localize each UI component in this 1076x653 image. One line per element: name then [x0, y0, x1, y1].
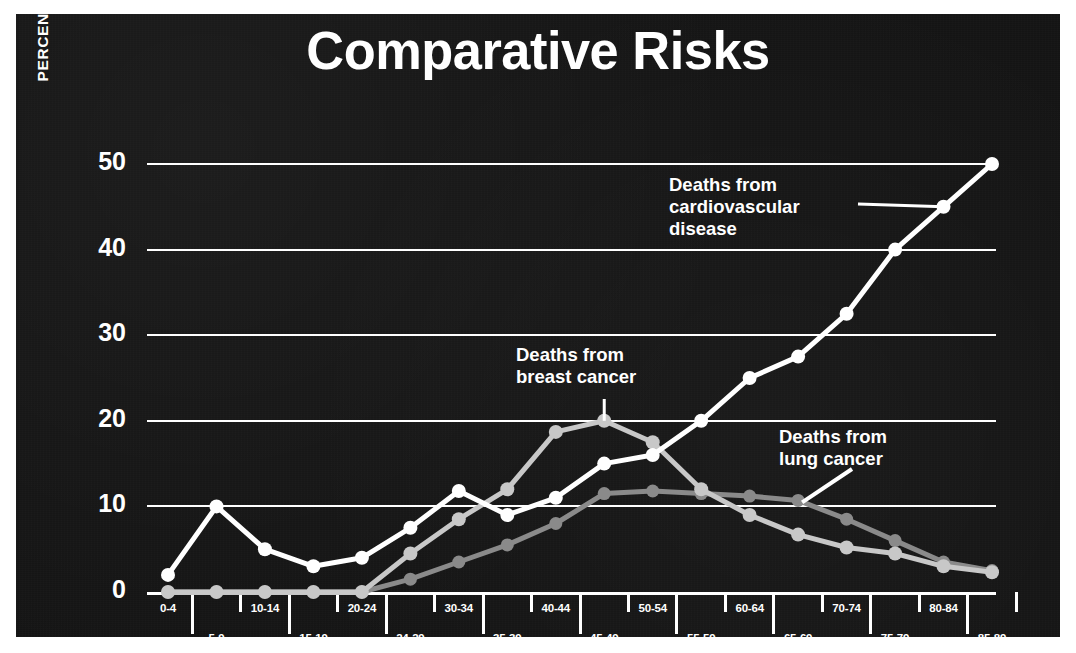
annotation-breast-cancer: Deaths from breast cancer — [516, 344, 636, 388]
data-point — [210, 585, 224, 599]
plot-area: 01020304050 0-45-910-1415-1920-2424-2930… — [16, 14, 1062, 639]
data-point — [888, 243, 902, 257]
data-point — [598, 487, 611, 500]
data-point — [791, 350, 805, 364]
data-point — [840, 307, 854, 321]
data-point — [646, 435, 660, 449]
data-point — [937, 559, 951, 573]
data-point — [791, 528, 805, 542]
series-layer — [16, 14, 1062, 639]
data-point — [500, 482, 514, 496]
annotation-leader-line — [802, 469, 852, 502]
data-point — [743, 371, 757, 385]
data-point — [306, 585, 320, 599]
data-point — [500, 508, 514, 522]
chart-plate: Comparative Risks PERCENT OF ALL DEATHS … — [14, 12, 1062, 639]
data-point — [743, 490, 756, 503]
data-point — [646, 448, 660, 462]
data-point — [403, 547, 417, 561]
data-point — [985, 157, 999, 171]
data-point — [694, 482, 708, 496]
data-point — [403, 521, 417, 535]
data-point — [306, 559, 320, 573]
annotation-lung-cancer: Deaths from lung cancer — [779, 426, 887, 470]
data-point — [549, 425, 563, 439]
data-point — [452, 484, 466, 498]
data-point — [452, 556, 465, 569]
data-point — [889, 534, 902, 547]
annotation-leader-line — [858, 204, 944, 207]
data-point — [404, 573, 417, 586]
data-point — [355, 551, 369, 565]
data-point — [501, 538, 514, 551]
annotation-cardiovascular: Deaths from cardiovascular disease — [669, 174, 800, 239]
data-point — [210, 499, 224, 513]
data-point — [840, 541, 854, 555]
data-point — [355, 585, 369, 599]
data-point — [549, 491, 563, 505]
poster-canvas: Comparative Risks PERCENT OF ALL DEATHS … — [0, 0, 1076, 653]
data-point — [549, 517, 562, 530]
data-point — [743, 508, 757, 522]
data-point — [646, 485, 659, 498]
data-point — [452, 512, 466, 526]
data-point — [985, 565, 999, 579]
series-line — [168, 491, 992, 592]
series-lung-cancer — [162, 485, 999, 599]
data-point — [258, 542, 272, 556]
data-point — [840, 513, 853, 526]
data-point — [161, 568, 175, 582]
data-point — [597, 457, 611, 471]
data-point — [694, 414, 708, 428]
data-point — [161, 585, 175, 599]
data-point — [888, 547, 902, 561]
data-point — [258, 585, 272, 599]
